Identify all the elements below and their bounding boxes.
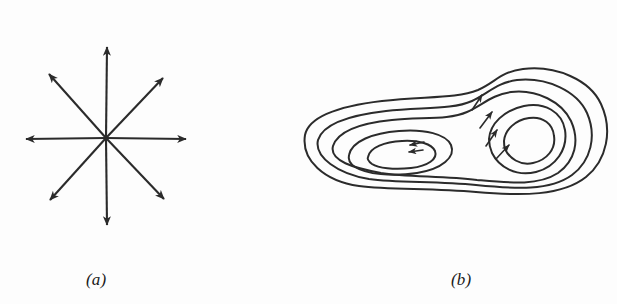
panel-b-caption: (b) xyxy=(451,270,471,290)
panel-b-contours xyxy=(305,68,608,194)
arrow-southwest xyxy=(50,138,106,200)
arrow-south xyxy=(106,138,107,225)
contour-left-basin-2 xyxy=(368,141,436,169)
arrowhead-left-2 xyxy=(409,150,423,152)
left-basin-arrowheads xyxy=(409,142,424,152)
arrow-north xyxy=(106,47,107,138)
panel-a-caption: (a) xyxy=(86,270,106,290)
arrow-northwest xyxy=(49,74,106,138)
arrow-west xyxy=(26,138,106,139)
arrowhead-right-2 xyxy=(480,112,492,128)
figure-container: (a) (b) xyxy=(0,0,617,304)
panel-a-star xyxy=(26,47,186,225)
contour-right-basin-2 xyxy=(504,118,554,164)
figure-svg xyxy=(0,0,617,304)
arrow-southeast xyxy=(106,138,164,199)
arrow-east xyxy=(106,138,186,139)
arrowhead-right-3 xyxy=(486,130,497,146)
arrow-northeast xyxy=(106,78,163,138)
